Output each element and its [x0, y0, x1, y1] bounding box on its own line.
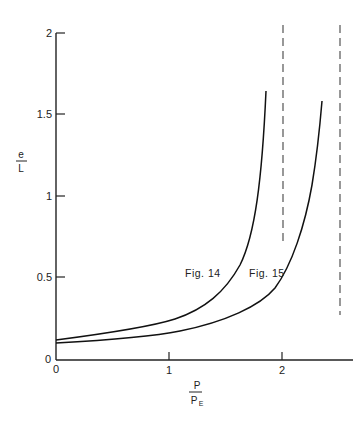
label-fig-15: Fig. 15: [249, 267, 285, 279]
svg-text:P: P: [191, 395, 198, 406]
curve-fig-15: [56, 101, 322, 343]
y-tick-label-0: 0: [45, 353, 51, 365]
curve-fig-14: [56, 91, 266, 340]
y-tick-label-1.5: 1.5: [37, 108, 52, 120]
svg-text:L: L: [18, 163, 24, 174]
svg-text:E: E: [199, 400, 204, 407]
y-axis-label: e L: [16, 149, 27, 174]
y-tick-label-2: 2: [46, 27, 52, 39]
x-axis-label: P P E: [189, 380, 204, 407]
x-ticks: [169, 352, 282, 360]
y-ticks: [56, 33, 65, 277]
chart-canvas: 2 1.5 1 0.5 0 0 1 2 e L P P E Fig. 14 Fi…: [0, 0, 364, 429]
label-fig-14: Fig. 14: [185, 267, 221, 279]
x-tick-label-1: 1: [166, 364, 172, 376]
x-tick-label-2: 2: [279, 364, 285, 376]
svg-text:e: e: [18, 149, 24, 160]
y-tick-label-0.5: 0.5: [37, 271, 52, 283]
svg-text:P: P: [194, 380, 201, 391]
y-tick-label-1: 1: [46, 190, 52, 202]
x-tick-label-0: 0: [53, 363, 59, 375]
